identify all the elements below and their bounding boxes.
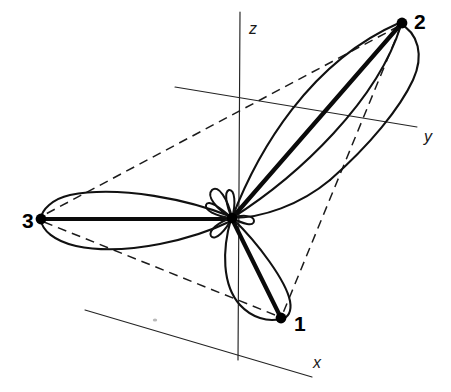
dashed-construction-lines (44, 26, 401, 318)
lobe-3-outline-upper (41, 192, 232, 218)
x-axis-label: x (312, 354, 322, 371)
dashed-line-3-to-1 (44, 222, 280, 317)
lobe-1-tip-node (276, 313, 287, 324)
lobe-2-tip-node (397, 18, 408, 29)
radiation-pattern-diagram: z y x 1 2 3 (0, 0, 451, 392)
lobe-3-group (36, 192, 232, 249)
origin-node (227, 213, 237, 223)
y-axis-line (175, 87, 417, 127)
figure-canvas: z y x 1 2 3 (0, 0, 451, 392)
lobe-1-outline-left (225, 219, 280, 320)
lobe-2-group (232, 18, 419, 218)
lobe-3-tip-node (36, 214, 47, 225)
lobe-3-label: 3 (22, 209, 34, 232)
lobe-1-label: 1 (294, 312, 306, 335)
scan-artifact-speck (153, 318, 157, 321)
lobe-2-cap-outer (330, 23, 419, 180)
lobe-2-label: 2 (414, 10, 426, 33)
z-axis-line (238, 12, 240, 360)
z-axis-label: z (248, 20, 257, 37)
dashed-line-2-to-1 (281, 26, 401, 318)
y-axis-label: y (423, 128, 433, 145)
lobe-3-outline-lower (41, 220, 231, 249)
minor-lobes-group (206, 189, 254, 238)
